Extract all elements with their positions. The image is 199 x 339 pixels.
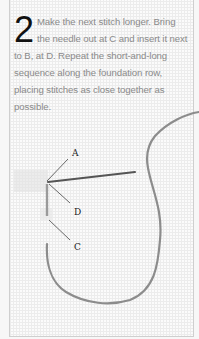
label-d: D [74,207,81,217]
label-c: C [74,242,81,252]
fabric-shading [14,170,48,192]
leader-line-c [49,220,70,240]
stitch-diagram: A D C [0,0,199,339]
leader-line-d [49,184,70,203]
leader-line-a [47,159,68,181]
thread-icon [47,112,199,303]
label-a: A [71,148,79,158]
needle-icon [48,172,135,182]
